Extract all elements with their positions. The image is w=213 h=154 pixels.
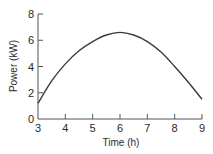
power-vs-time-chart: 024683456789 Time (h) Power (kW)	[0, 0, 213, 154]
y-tick-label: 4	[28, 61, 34, 73]
x-tick-label: 8	[172, 122, 178, 134]
x-tick-label: 5	[90, 122, 96, 134]
power-curve	[38, 32, 202, 103]
y-tick-label: 6	[28, 34, 34, 46]
x-tick-label: 4	[62, 122, 68, 134]
x-axis-title: Time (h)	[103, 137, 140, 148]
x-tick-label: 7	[144, 122, 150, 134]
y-tick-label: 8	[28, 8, 34, 20]
y-axis-title: Power (kW)	[8, 40, 19, 92]
x-tick-label: 3	[35, 122, 41, 134]
y-tick-label: 0	[28, 113, 34, 125]
y-tick-label: 2	[28, 87, 34, 99]
x-tick-label: 6	[117, 122, 123, 134]
x-tick-label: 9	[199, 122, 205, 134]
